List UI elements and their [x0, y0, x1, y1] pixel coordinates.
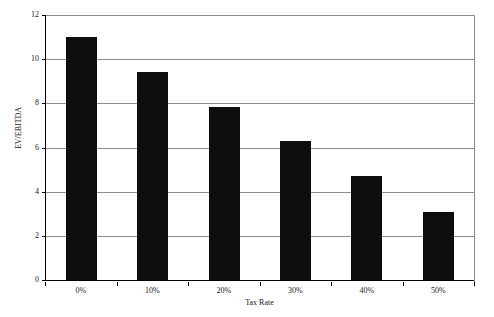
x-axis-tick-label: 50% [403, 287, 475, 295]
plot-area: 024681012 [45, 15, 474, 281]
bar-slot [117, 15, 188, 280]
x-axis-title: Tax Rate [45, 299, 474, 307]
x-axis-tick-label: 0% [45, 287, 117, 295]
bar-slot [331, 15, 402, 280]
bar-slot [403, 15, 474, 280]
plot-frame-right [474, 15, 475, 282]
x-axis-tick-mark [331, 282, 332, 286]
y-axis-tick-label: 12 [31, 11, 39, 19]
bar [280, 141, 311, 280]
y-axis-tick-label: 8 [35, 99, 39, 107]
bar [66, 37, 97, 280]
x-axis-tick-label: 20% [188, 287, 260, 295]
y-axis-tick-label: 0 [35, 276, 39, 284]
bar [209, 107, 240, 280]
x-axis-tick-mark [188, 282, 189, 286]
bar [137, 72, 168, 280]
y-axis-tick-label: 4 [35, 188, 39, 196]
bar [423, 212, 454, 280]
x-axis-labels-group: 0%10%20%30%40%50% [45, 287, 474, 295]
bars-group [46, 15, 474, 280]
x-axis-tick-label: 40% [331, 287, 403, 295]
y-axis-tick-mark [42, 280, 46, 281]
bar-slot [260, 15, 331, 280]
x-axis-tick-mark [474, 282, 475, 286]
bar-chart: EV/EBITDA 024681012 0%10%20%30%40%50% Ta… [0, 0, 494, 317]
y-axis-tick-label: 6 [35, 144, 39, 152]
y-axis-tick-label: 10 [31, 55, 39, 63]
x-axis-tick-label: 30% [260, 287, 332, 295]
x-axis-tick-mark [117, 282, 118, 286]
x-axis-tick-mark [403, 282, 404, 286]
x-axis-tick-mark [260, 282, 261, 286]
bar-slot [46, 15, 117, 280]
bar-slot [189, 15, 260, 280]
x-axis-tick-mark [45, 282, 46, 286]
y-axis-tick-label: 2 [35, 232, 39, 240]
bar [351, 176, 382, 280]
y-axis-title: EV/EBITDA [15, 93, 23, 163]
x-axis-tick-label: 10% [117, 287, 189, 295]
